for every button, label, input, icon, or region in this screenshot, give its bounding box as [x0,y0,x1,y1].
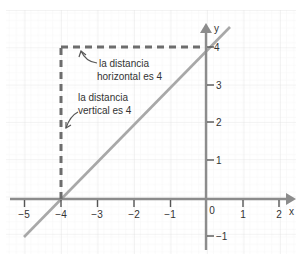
y-tick-label: 1 [216,155,222,166]
x-tick-label: −5 [18,209,30,220]
x-tick-label: 2 [276,209,282,220]
x-tick-label: −1 [164,209,176,220]
coordinate-plane-diagram: −5 −4 −3 −2 −1 0 1 2 4 3 2 1 −1 x y [0,0,304,262]
x-tick-label: −2 [128,209,140,220]
x-tick-label: −4 [55,209,67,220]
x-tick-label: −3 [91,209,103,220]
y-tick-label: −1 [216,231,228,242]
annotation-vertical-line1: la distancia [78,92,128,103]
annotation-horizontal-line1: la distancia [99,58,149,69]
y-tick-label: 2 [216,117,222,128]
x-axis-label: x [289,206,294,217]
y-tick-label: 3 [216,80,222,91]
annotation-vertical-line2: vertical es 4 [78,105,132,116]
y-tick-label: 4 [214,42,220,53]
origin-label: 0 [209,205,215,216]
y-axis-label: y [214,23,219,34]
annotation-horizontal-line2: horizontal es 4 [97,71,162,82]
x-tick-label: 1 [240,209,246,220]
